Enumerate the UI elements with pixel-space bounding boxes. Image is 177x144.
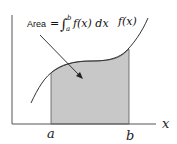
integral-diagram: Area = ∫ b a f(x) dx f(x) x a b <box>0 0 177 144</box>
equals-sign: = <box>50 17 59 30</box>
integrand: f(x) dx <box>72 17 109 30</box>
x-axis-label: x <box>162 116 170 131</box>
area-label: Area <box>27 19 46 29</box>
integral-upper-bound: b <box>67 14 72 22</box>
upper-bound-label: b <box>126 128 134 143</box>
curve-label: f(x) <box>117 15 137 28</box>
shaded-area <box>51 49 129 124</box>
lower-bound-label: a <box>47 126 55 141</box>
integral-lower-bound: a <box>66 25 70 33</box>
